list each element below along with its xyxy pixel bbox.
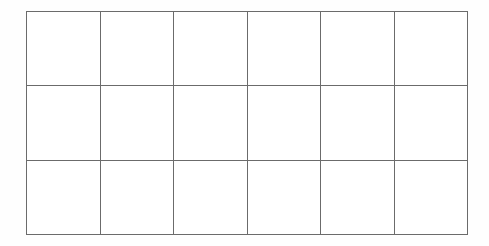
table-cell-content (101, 12, 174, 85)
table-row (27, 160, 468, 234)
table-cell-content (395, 161, 468, 234)
table-cell[interactable] (174, 86, 248, 160)
table-cell-content (101, 86, 174, 159)
table-cell[interactable] (394, 160, 468, 234)
table-cell[interactable] (247, 12, 321, 86)
table-cell[interactable] (27, 12, 101, 86)
table-cell-content (395, 86, 468, 159)
table-cell[interactable] (321, 160, 395, 234)
grid-table-body (27, 12, 468, 235)
table-cell-content (248, 161, 321, 234)
table-cell[interactable] (321, 12, 395, 86)
table-cell[interactable] (247, 160, 321, 234)
table-row (27, 86, 468, 160)
table-cell-content (321, 86, 394, 159)
table-cell-content (27, 12, 100, 85)
table-cell-content (395, 12, 468, 85)
table-cell-content (321, 12, 394, 85)
table-cell[interactable] (394, 86, 468, 160)
table-cell-content (248, 12, 321, 85)
table-cell[interactable] (174, 12, 248, 86)
table-cell[interactable] (394, 12, 468, 86)
table-row (27, 12, 468, 86)
table-cell[interactable] (27, 86, 101, 160)
page-canvas (0, 0, 489, 246)
table-cell[interactable] (100, 86, 174, 160)
table-cell-content (321, 161, 394, 234)
table-cell-content (174, 12, 247, 85)
table-cell-content (101, 161, 174, 234)
table-cell[interactable] (247, 86, 321, 160)
table-cell-content (248, 86, 321, 159)
grid-table (26, 11, 468, 235)
table-cell-content (27, 86, 100, 159)
table-cell[interactable] (100, 160, 174, 234)
table-cell[interactable] (174, 160, 248, 234)
table-cell-content (174, 86, 247, 159)
table-cell[interactable] (27, 160, 101, 234)
table-cell[interactable] (100, 12, 174, 86)
table-cell-content (174, 161, 247, 234)
table-cell[interactable] (321, 86, 395, 160)
table-cell-content (27, 161, 100, 234)
